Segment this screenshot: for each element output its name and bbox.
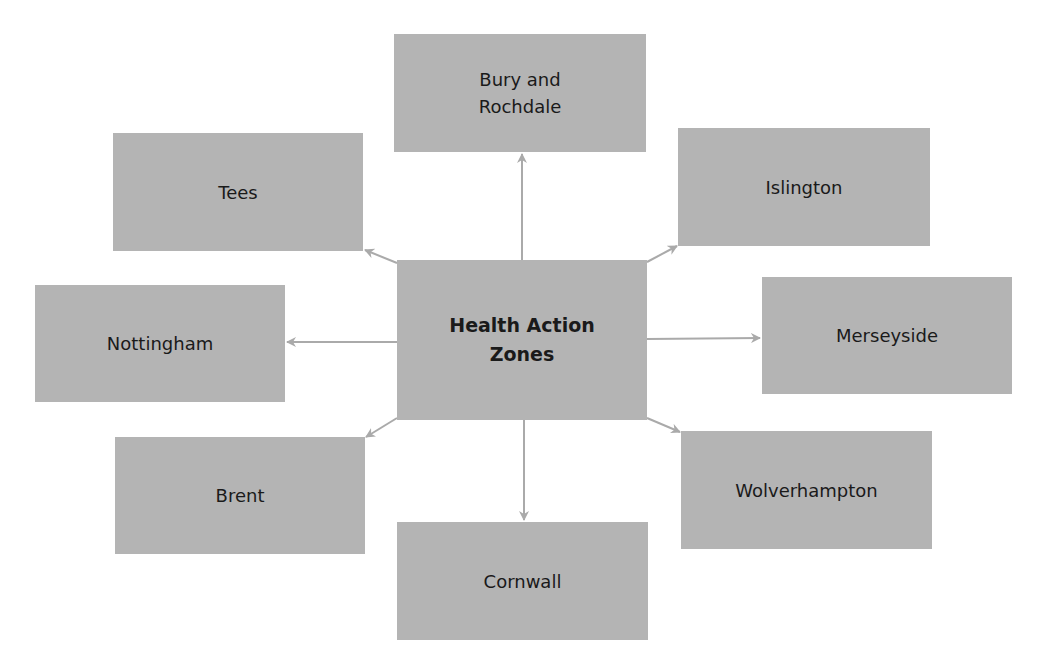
node-wolverhampton: Wolverhampton <box>681 431 932 549</box>
node-merseyside: Merseyside <box>762 277 1012 394</box>
node-label: Tees <box>218 179 257 206</box>
arrow-to-brent <box>366 418 397 437</box>
node-label: Wolverhampton <box>735 477 877 504</box>
node-label: Nottingham <box>107 330 213 357</box>
node-label: Bury and Rochdale <box>479 66 562 120</box>
node-label: Islington <box>765 174 842 201</box>
arrow-to-wolverhampton <box>647 418 680 432</box>
node-bury-and-rochdale: Bury and Rochdale <box>394 34 646 152</box>
arrow-to-islington <box>647 246 677 262</box>
center-node-health-action-zones: Health Action Zones <box>397 260 647 420</box>
arrow-to-tees <box>365 250 397 263</box>
node-label: Merseyside <box>836 322 938 349</box>
node-tees: Tees <box>113 133 363 251</box>
node-label: Brent <box>216 482 265 509</box>
node-islington: Islington <box>678 128 930 246</box>
center-node-label: Health Action Zones <box>449 311 595 369</box>
node-brent: Brent <box>115 437 365 554</box>
health-action-zones-diagram: Health Action Zones Bury and Rochdale Is… <box>0 0 1050 647</box>
node-nottingham: Nottingham <box>35 285 285 402</box>
node-label: Cornwall <box>484 568 562 595</box>
arrow-to-merseyside <box>647 338 760 339</box>
node-cornwall: Cornwall <box>397 522 648 640</box>
